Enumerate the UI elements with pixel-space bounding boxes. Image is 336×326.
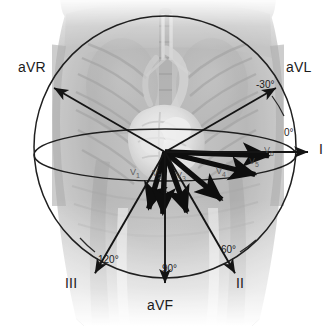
lead-label-V6-sub: 6 (270, 150, 274, 157)
angle-label-minus-30: -30° (256, 80, 274, 90)
lead-label-I: I (319, 142, 323, 156)
lead-label-aVL: aVL (286, 60, 312, 74)
lead-label-V3-sub: 3 (182, 175, 186, 182)
angle-label-0: 0° (284, 128, 294, 138)
lead-label-V4: V4 (216, 167, 226, 178)
lead-label-II: II (236, 276, 244, 290)
lead-axes-canvas (0, 0, 336, 326)
lead-label-V5: V5 (249, 157, 259, 168)
lead-label-V1-sub: 1 (136, 172, 140, 179)
lead-label-V2-sub: 2 (158, 173, 162, 180)
angle-label-60: 60° (221, 245, 236, 255)
lead-label-aVR: aVR (18, 60, 46, 74)
lead-label-aVF: aVF (147, 298, 173, 312)
ecg-lead-axes-figure: aVR aVL I II aVF III -30° 0° 60° 90° 120… (0, 0, 336, 326)
angle-label-90: 90° (162, 264, 177, 274)
lead-label-V2: V2 (152, 169, 162, 180)
lead-label-V1: V1 (130, 168, 140, 179)
angle-label-120: 120° (98, 255, 119, 265)
lead-label-V3: V3 (176, 171, 186, 182)
lead-label-V5-sub: 5 (255, 161, 259, 168)
lead-label-V6: V6 (264, 146, 274, 157)
lead-label-III: III (65, 276, 77, 290)
lead-label-V4-sub: 4 (222, 171, 226, 178)
